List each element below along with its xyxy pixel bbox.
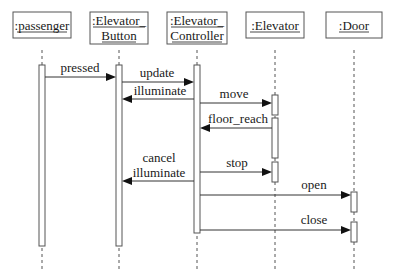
message-label: illuminate <box>134 83 187 98</box>
activation-elevator-stop <box>272 162 278 182</box>
object-elevator-button: :Elevator_ Button <box>90 12 148 44</box>
activation-passenger <box>39 65 45 246</box>
object-label-line2: Button <box>101 28 137 43</box>
message-illuminate: illuminate <box>122 83 194 103</box>
message-label: pressed <box>61 60 100 75</box>
object-label: :Door <box>339 18 370 33</box>
activation-elevator-floor <box>272 118 278 158</box>
message-pressed: pressed <box>45 60 116 81</box>
message-label: floor_reach <box>208 111 268 126</box>
message-label-line1: cancel <box>142 150 176 165</box>
object-label: :passenger <box>15 18 71 33</box>
message-label: stop <box>226 155 248 170</box>
message-floor-reach: floor_reach <box>200 111 272 132</box>
message-label: close <box>301 212 328 227</box>
object-elevator-controller: :Elevator_ Controller <box>167 12 227 44</box>
message-label: move <box>220 86 249 101</box>
object-elevator: :Elevator <box>246 12 304 38</box>
object-label: :Elevator <box>251 18 299 33</box>
message-move: move <box>200 86 272 107</box>
activation-elevator-move <box>272 95 278 115</box>
object-label-line1: :Elevator_ <box>170 13 225 28</box>
object-label-line1: :Elevator_ <box>92 13 147 28</box>
message-label: open <box>301 177 327 192</box>
message-label: update <box>140 65 175 80</box>
activation-door-open <box>351 192 357 212</box>
object-door: :Door <box>326 12 382 38</box>
message-stop: stop <box>200 155 272 176</box>
activation-controller <box>194 65 200 233</box>
object-label-line2: Controller <box>170 28 224 43</box>
message-label-line2: illuminate <box>133 165 186 180</box>
message-cancel-illuminate: cancel illuminate <box>122 150 194 185</box>
activation-button <box>116 65 122 246</box>
sequence-diagram: :passenger :Elevator_ Button :Elevator_ … <box>0 0 397 272</box>
activation-door-close <box>351 222 357 242</box>
object-passenger: :passenger <box>13 12 71 38</box>
